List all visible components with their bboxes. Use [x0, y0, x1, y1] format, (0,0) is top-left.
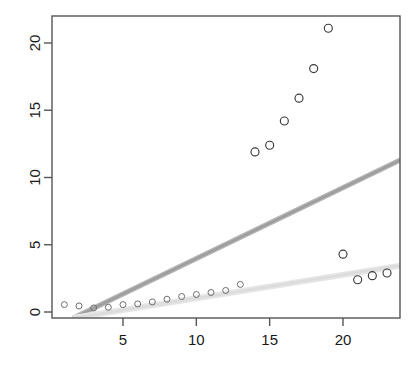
- data-points-group: [61, 24, 391, 311]
- x-tick-label-10: 10: [188, 331, 205, 348]
- data-point: [237, 281, 243, 287]
- data-point: [61, 302, 67, 308]
- y-tick-label-5: 5: [26, 241, 43, 249]
- y-tick-label-20: 20: [26, 35, 43, 52]
- data-point: [295, 94, 303, 102]
- x-tick-label-15: 15: [261, 331, 278, 348]
- data-point: [266, 141, 274, 149]
- y-tick-label-0: 0: [26, 308, 43, 316]
- data-point: [76, 303, 82, 309]
- data-point: [310, 65, 318, 73]
- y-tick-label-15: 15: [26, 102, 43, 119]
- chart-canvas: 510152005101520: [0, 0, 417, 369]
- y-tick-label-10: 10: [26, 169, 43, 186]
- scatter-plot-figure: 510152005101520: [0, 0, 417, 369]
- data-point: [280, 117, 288, 125]
- data-point: [324, 24, 332, 32]
- data-point: [251, 148, 259, 156]
- data-point: [120, 302, 126, 308]
- data-point: [339, 250, 347, 258]
- x-tick-label-20: 20: [335, 331, 352, 348]
- x-tick-label-5: 5: [119, 331, 127, 348]
- reference-bands-group: [73, 160, 400, 318]
- data-point: [354, 276, 362, 284]
